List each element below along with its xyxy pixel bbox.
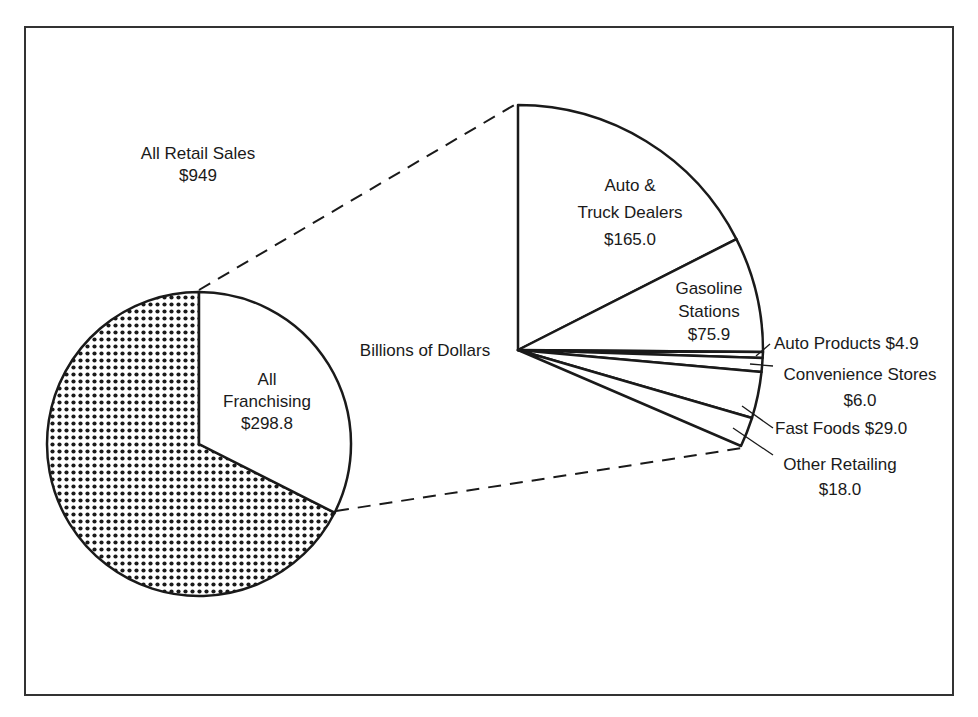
all-retail-sales-label: All Retail Sales $949 (118, 143, 278, 187)
other-retailing-label: Other Retailing $18.0 (770, 452, 910, 502)
convenience-stores-title: Convenience Stores (772, 362, 948, 388)
all-retail-sales-title: All Retail Sales (118, 143, 278, 165)
auto-truck-dealers-label: Auto & Truck Dealers $165.0 (560, 172, 700, 253)
fast-foods-label: Fast Foods $29.0 (775, 418, 907, 440)
all-retail-sales-value: $949 (118, 165, 278, 187)
all-franchising-title-1: All (212, 369, 322, 391)
auto-truck-dealers-value: $165.0 (560, 226, 700, 253)
exploded-pie (518, 105, 763, 446)
all-franchising-value: $298.8 (212, 413, 322, 435)
gasoline-stations-label: Gasoline Stations $75.9 (664, 277, 754, 346)
convenience-stores-value: $6.0 (772, 388, 948, 414)
auto-truck-dealers-title-2: Truck Dealers (560, 199, 700, 226)
units-label: Billions of Dollars (340, 340, 510, 362)
auto-truck-dealers-title-1: Auto & (560, 172, 700, 199)
all-franchising-title-2: Franchising (212, 391, 322, 413)
all-franchising-label: All Franchising $298.8 (212, 369, 322, 435)
auto-products-label: Auto Products $4.9 (774, 333, 919, 355)
gasoline-stations-value: $75.9 (664, 323, 754, 346)
other-retailing-value: $18.0 (770, 477, 910, 502)
main-pie (47, 292, 351, 596)
gasoline-stations-title-1: Gasoline (664, 277, 754, 300)
gasoline-stations-title-2: Stations (664, 300, 754, 323)
convenience-stores-label: Convenience Stores $6.0 (772, 362, 948, 414)
other-retailing-title: Other Retailing (770, 452, 910, 477)
